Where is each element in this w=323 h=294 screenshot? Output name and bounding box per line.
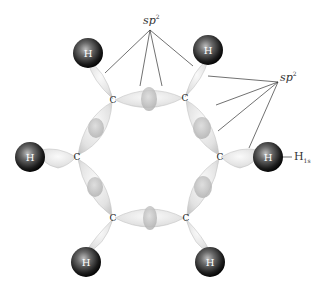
sp2-top-leader-lines (105, 30, 193, 86)
carbon-atom-3: C (217, 152, 224, 162)
cc-sigma-bond-top (115, 87, 183, 111)
benzene-orbital-diagram: H H H H H H C C C C C C (0, 0, 323, 294)
svg-text:H: H (264, 152, 273, 163)
svg-text:H: H (26, 152, 35, 163)
hydrogen-atom-2: H (193, 35, 223, 65)
sp2-top-text: sp (143, 14, 156, 27)
svg-text:H: H (84, 48, 93, 59)
carbon-atom-4: C (183, 213, 190, 223)
cc-sigma-bond-upper-right (186, 100, 219, 155)
ch-bond-lobe-6 (40, 149, 76, 168)
hydrogen-atom-6: H (15, 142, 45, 172)
carbon-atom-5: C (110, 213, 117, 223)
hydrogen-atom-4: H (195, 247, 225, 277)
ch-bond-lobe-1 (88, 62, 113, 99)
ch-bond-lobe-4 (186, 219, 210, 252)
cc-sigma-bond-bottom (115, 206, 184, 230)
hydrogen-atom-1: H (73, 38, 103, 68)
sp2-right-superscript: 2 (293, 70, 297, 77)
cc-sigma-bond-lower-left (78, 159, 112, 216)
sp2-right-leader-lines (208, 76, 278, 148)
h1s-subscript: 1s (304, 157, 311, 164)
sp2-top-superscript: 2 (156, 13, 160, 20)
svg-text:H: H (82, 257, 91, 268)
carbon-atom-1: C (110, 95, 117, 105)
sp2-label-top: sp2 (143, 13, 160, 27)
cc-sigma-bond-lower-right (187, 159, 219, 216)
ch-bond-lobe-2 (185, 60, 208, 97)
sp2-label-right: sp2 (280, 70, 297, 84)
sp2-right-text: sp (280, 71, 293, 84)
cc-sigma-bond-upper-left (78, 102, 112, 155)
carbon-atom-6: C (74, 152, 81, 162)
carbon-atom-2: C (182, 93, 189, 103)
ch-bond-lobe-5 (86, 219, 113, 252)
h1s-text: H (294, 150, 304, 163)
svg-text:H: H (204, 45, 213, 56)
ch-bond-lobe-3 (221, 149, 258, 168)
svg-text:H: H (206, 257, 215, 268)
h1s-orbital-label: H1s (294, 150, 311, 164)
hydrogen-atom-5: H (71, 247, 101, 277)
hydrogen-atom-3: H (253, 142, 283, 172)
